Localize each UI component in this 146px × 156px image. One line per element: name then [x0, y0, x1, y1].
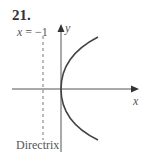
x-axis-arrow-icon: [131, 86, 139, 93]
y-axis-arrow-icon: [58, 24, 65, 32]
directrix-equation-value: = −1: [22, 25, 48, 39]
problem-number: 21.: [12, 7, 31, 24]
y-axis-label: y: [65, 21, 70, 36]
parabola-figure: 21. x = −1 y x Directrix: [0, 0, 146, 156]
directrix-label: Directrix: [16, 138, 59, 153]
directrix-equation: x = −1: [17, 25, 48, 40]
x-axis-label: x: [133, 94, 138, 109]
